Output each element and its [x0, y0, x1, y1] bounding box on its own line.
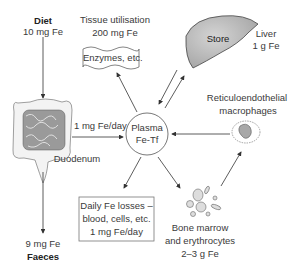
re-label-2: macrophages [208, 105, 288, 117]
marrow-label-1: Bone marrow [168, 222, 232, 234]
plasma-to-liver-arrow [165, 76, 184, 108]
duodenum-label: Duodenum [52, 153, 102, 165]
losses-arrow [124, 157, 141, 188]
absorption-label: 1 mg Fe/day [74, 120, 124, 132]
faeces-amount: 9 mg Fe [18, 238, 68, 250]
diet-amount: 10 mg Fe [15, 26, 71, 38]
iron-metabolism-diagram: Diet 10 mg Fe Tissue utilisation 200 mg … [0, 0, 294, 269]
losses-label-2: blood, cells, etc. [79, 213, 154, 225]
marrow-label-2: and erythrocytes [160, 235, 240, 247]
marrow-to-re-arrow [221, 152, 241, 186]
liver-title: Liver [248, 28, 284, 40]
tissue-title: Tissue utilisation [75, 14, 155, 26]
tissue-arrow [117, 73, 137, 112]
marrow-arrow [158, 157, 180, 188]
liver-to-plasma-arrow [159, 70, 177, 104]
liver-amount: 1 g Fe [248, 40, 284, 52]
marrow-label-3: 2–3 g Fe [170, 248, 230, 260]
re-label-1: Reticuloendothelial [200, 92, 294, 104]
bone-marrow-cells-icon [187, 186, 222, 217]
macrophage-icon [232, 121, 260, 143]
losses-label-3: 1 mg Fe/day [79, 226, 154, 238]
enzymes-label: Enzymes, etc. [83, 52, 140, 64]
faeces-title: Faeces [18, 251, 68, 263]
liver-store-label: Store [198, 33, 238, 45]
intestine-icon [13, 99, 72, 183]
losses-label-1: Daily Fe losses – [79, 200, 154, 212]
plasma-label-1: Plasma [127, 122, 167, 134]
plasma-label-2: Fe-Tf [127, 134, 167, 146]
tissue-amount: 200 mg Fe [80, 27, 150, 39]
